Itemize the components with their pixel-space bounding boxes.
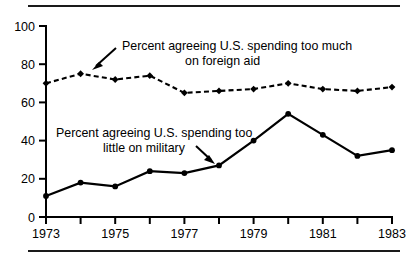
x-axis-tick-label: 1977 bbox=[170, 227, 198, 241]
x-axis-tick-label: 1981 bbox=[309, 227, 337, 241]
data-point-marker bbox=[182, 170, 188, 176]
chart-figure: 020406080100 197319751977197919811983 Pe… bbox=[0, 0, 419, 263]
y-axis-tick-label: 20 bbox=[21, 172, 35, 186]
annotation-foreign-aid: Percent agreeing U.S. spending too much … bbox=[92, 39, 352, 70]
data-point-marker bbox=[43, 193, 49, 199]
annotation-military-line2: little on military bbox=[103, 141, 186, 155]
y-axis-tick-labels: 020406080100 bbox=[14, 20, 35, 225]
y-axis-tick-label: 40 bbox=[21, 134, 35, 148]
data-point-marker bbox=[355, 153, 361, 159]
y-axis-tick-label: 60 bbox=[21, 96, 35, 110]
annotation-military-line1: Percent agreeing U.S. spending too bbox=[56, 126, 252, 140]
data-point-marker bbox=[181, 89, 188, 96]
data-point-marker bbox=[320, 132, 326, 138]
annotation-military: Percent agreeing U.S. spending too littl… bbox=[56, 126, 252, 164]
data-point-marker bbox=[285, 111, 291, 117]
data-point-marker bbox=[216, 88, 223, 95]
data-point-marker bbox=[147, 168, 153, 174]
annotation-foreign-aid-line2: on foreign aid bbox=[185, 54, 260, 68]
data-point-marker bbox=[43, 80, 50, 87]
chart-series-2 bbox=[43, 111, 395, 199]
y-axis-tick-label: 100 bbox=[14, 20, 35, 34]
x-axis-tick-label: 1983 bbox=[378, 227, 406, 241]
chart-series-1 bbox=[43, 70, 396, 96]
data-point-marker bbox=[389, 84, 396, 91]
data-point-marker bbox=[250, 86, 257, 93]
data-point-marker bbox=[77, 70, 84, 77]
data-point-marker bbox=[354, 88, 361, 95]
data-point-marker bbox=[216, 163, 222, 169]
y-axis-tick-label: 0 bbox=[28, 211, 35, 225]
line-chart-plot: 020406080100 197319751977197919811983 Pe… bbox=[0, 0, 419, 263]
x-axis-tick-label: 1975 bbox=[101, 227, 129, 241]
data-point-marker bbox=[146, 72, 153, 79]
y-axis-tick-label: 80 bbox=[21, 58, 35, 72]
x-axis-tick-labels: 197319751977197919811983 bbox=[32, 227, 406, 241]
x-axis-tick-label: 1973 bbox=[32, 227, 60, 241]
data-point-marker bbox=[319, 86, 326, 93]
x-axis-tick-label: 1979 bbox=[240, 227, 268, 241]
annotation-foreign-aid-line1: Percent agreeing U.S. spending too much bbox=[122, 39, 352, 53]
data-point-marker bbox=[78, 180, 84, 186]
data-point-marker bbox=[285, 80, 292, 87]
annotation-foreign-aid-arrow-head bbox=[92, 62, 103, 70]
data-point-marker bbox=[389, 147, 395, 153]
data-point-marker bbox=[112, 184, 118, 190]
data-point-marker bbox=[112, 76, 119, 83]
